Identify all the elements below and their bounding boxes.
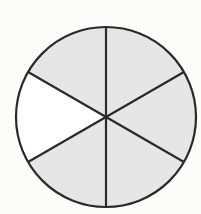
fraction-circle-diagram [0, 0, 201, 214]
